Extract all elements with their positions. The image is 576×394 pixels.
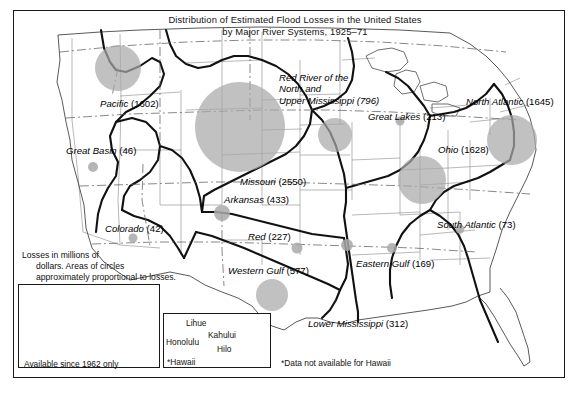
region-label-value: (73) [499,219,516,230]
legend-note: Losses in millions of dollars. Areas of … [22,250,202,283]
region-label-colorado: Colorado (42) [105,223,164,234]
map-title-line-2: by Major River Systems, 1925–71 [150,26,440,38]
region-label-text: Upper Mississippi (796) [279,95,379,106]
region-label-name: Lower Mississippi [308,318,386,329]
region-label-value: (2550) [278,176,306,187]
region-label-red: Red (227) [248,231,291,242]
region-label-value: (1645) [526,96,554,107]
region-label-great-lakes: Great Lakes (213) [368,111,445,122]
region-label-value: (213) [423,111,445,122]
region-label-name: Colorado [105,223,147,234]
region-label-south-atlantic: South Atlantic (73) [437,219,516,230]
region-label-lower-mississippi: Lower Mississippi (312) [308,318,408,329]
region-label-text: Red River of the [279,72,379,83]
region-label-missouri: Missouri (2550) [240,176,306,187]
legend-note-line-1: Losses in millions of [22,250,202,261]
hawaii-inset-caption: *Hawaii [167,357,195,367]
region-label-name: Eastern Gulf [356,258,412,269]
legend-note-line-3: approximately proportional to losses. [22,272,202,283]
region-label-value: (312) [386,318,408,329]
region-label-value: (169) [412,258,434,269]
region-label-name: Western Gulf [228,265,286,276]
region-label-name: Great Basin [66,145,119,156]
region-label-value: (433) [267,194,289,205]
region-label-western-gulf: Western Gulf (577) [228,265,309,276]
region-label-name: North Atlantic [466,96,526,107]
region-label-value: (577) [286,265,308,276]
region-label-name: Great Lakes [368,111,423,122]
region-label-value: (46) [119,145,136,156]
region-label-name: Red [248,231,268,242]
alaska-inset [18,284,160,368]
region-label-north-atlantic: North Atlantic (1645) [466,96,554,107]
region-label-red-river-of-the-north-and-upper-mississippi: Red River of theNorth andUpper Mississip… [279,72,379,106]
region-label-name: South Atlantic [437,219,499,230]
region-label-text: North and [279,83,379,94]
region-label-ohio: Ohio (1628) [438,144,489,155]
region-label-value: (42) [147,223,164,234]
region-label-great-basin: Great Basin (46) [66,145,136,156]
hawaii-city-kahului: Kahului [208,330,236,340]
region-label-arkansas: Arkansas (433) [224,194,289,205]
region-label-name: Arkansas [224,194,267,205]
region-label-name: Missouri [240,176,278,187]
hawaii-city-lihue: Lihue [186,318,207,328]
region-label-pacific: Pacific (1602) [100,98,159,109]
region-label-eastern-gulf: Eastern Gulf (169) [356,258,434,269]
region-label-name: Ohio [438,144,461,155]
flood-losses-map-figure: Distribution of Estimated Flood Losses i… [0,0,576,394]
map-title: Distribution of Estimated Flood Losses i… [150,14,440,38]
alaska-inset-caption: Available since 1962 only [24,359,118,369]
map-title-line-1: Distribution of Estimated Flood Losses i… [150,14,440,26]
legend-note-line-2: dollars. Areas of circles [22,261,202,272]
region-label-value: (227) [268,231,290,242]
region-label-value: (1628) [461,144,489,155]
hawaii-data-footnote: *Data not available for Hawaii [281,358,391,368]
region-label-value: (1602) [131,98,159,109]
region-label-name: Pacific [100,98,131,109]
hawaii-city-hilo: Hilo [217,344,231,354]
hawaii-city-honolulu: Honolulu [166,337,199,347]
